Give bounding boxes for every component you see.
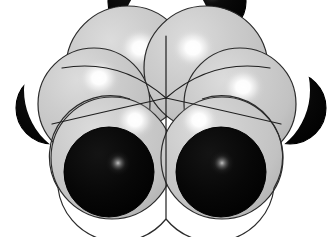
- atom-black-front-left: [64, 127, 154, 217]
- figure-canvas: [0, 0, 332, 237]
- atom-black-front-right: [176, 127, 266, 217]
- space-filling-model: [0, 0, 332, 237]
